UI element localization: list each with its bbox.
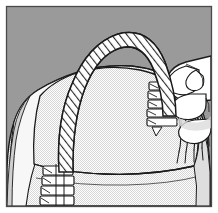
illustration-figure: Hand weaving a wicker basket with a twis… <box>0 0 218 213</box>
basket-weaving-illustration: Hand weaving a wicker basket with a twis… <box>0 0 218 213</box>
